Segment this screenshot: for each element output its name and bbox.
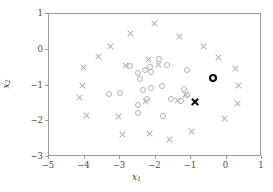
data-point-class-x xyxy=(144,55,153,64)
y-tick-mark xyxy=(45,49,48,50)
x-tick-mark xyxy=(84,156,85,159)
data-point-class-o xyxy=(168,96,174,102)
data-point-class-x xyxy=(220,114,229,123)
scatter-plot-figure: −5−4−3−2−101−3−2−101 x1 x2 xyxy=(0,0,273,192)
x-axis-title: x1 xyxy=(0,172,273,183)
x-tick-label: −1 xyxy=(184,160,197,170)
data-point-class-o xyxy=(184,92,190,98)
data-point-query-x xyxy=(190,97,200,107)
x-tick-label: −2 xyxy=(148,160,161,170)
data-point-class-x xyxy=(214,53,223,62)
y-tick-label: −3 xyxy=(30,151,43,161)
y-tick-label: −1 xyxy=(30,80,43,90)
data-point-class-o xyxy=(148,85,154,91)
y-tick-mark xyxy=(45,120,48,121)
data-point-class-x xyxy=(82,111,91,120)
data-point-class-x xyxy=(199,42,208,51)
data-point-class-x xyxy=(165,135,174,144)
data-point-class-x xyxy=(187,127,196,136)
x-tick-label: 0 xyxy=(223,160,228,170)
data-point-class-o xyxy=(159,83,165,89)
y-tick-label: −2 xyxy=(30,115,43,125)
data-point-class-x xyxy=(78,81,87,90)
x-tick-label: 1 xyxy=(258,160,263,170)
y-tick-label: 0 xyxy=(38,44,43,54)
x-tick-mark xyxy=(155,156,156,159)
data-point-class-o xyxy=(144,96,150,102)
x-tick-mark xyxy=(190,156,191,159)
data-point-class-o xyxy=(127,63,133,69)
data-point-class-o xyxy=(135,102,141,108)
data-point-class-x xyxy=(126,29,135,38)
data-point-class-o xyxy=(156,56,162,62)
data-point-class-o xyxy=(135,110,141,116)
x-tick-mark xyxy=(119,156,120,159)
data-point-class-x xyxy=(106,42,115,51)
data-point-class-x xyxy=(75,93,84,102)
data-point-class-x xyxy=(94,52,103,61)
data-point-query-o xyxy=(209,74,217,82)
data-point-class-x xyxy=(79,63,88,72)
data-point-class-o xyxy=(140,87,146,93)
x-tick-mark xyxy=(48,156,49,159)
data-point-class-x xyxy=(150,19,159,28)
data-point-class-o xyxy=(117,90,123,96)
y-axis-title: x2 xyxy=(1,79,12,88)
data-point-class-x xyxy=(234,81,243,90)
data-point-class-x xyxy=(233,99,242,108)
y-tick-mark xyxy=(45,85,48,86)
data-point-class-o xyxy=(164,62,170,68)
data-point-class-o xyxy=(137,76,143,82)
y-tick-mark xyxy=(45,13,48,14)
data-point-class-x xyxy=(175,32,184,41)
x-tick-label: −3 xyxy=(113,160,126,170)
data-point-class-x xyxy=(145,129,154,138)
data-point-class-o xyxy=(148,69,154,75)
x-tick-mark xyxy=(261,156,262,159)
data-point-class-o xyxy=(160,113,166,119)
x-tick-mark xyxy=(226,156,227,159)
y-tick-label: 1 xyxy=(38,8,43,18)
data-point-class-x xyxy=(118,130,127,139)
data-point-class-x xyxy=(231,64,240,73)
y-tick-mark xyxy=(45,156,48,157)
x-tick-label: −4 xyxy=(77,160,90,170)
x-tick-label: −5 xyxy=(42,160,55,170)
data-point-class-x xyxy=(114,112,123,121)
data-point-class-o xyxy=(178,98,184,104)
data-point-class-o xyxy=(106,91,112,97)
data-point-class-o xyxy=(184,67,190,73)
